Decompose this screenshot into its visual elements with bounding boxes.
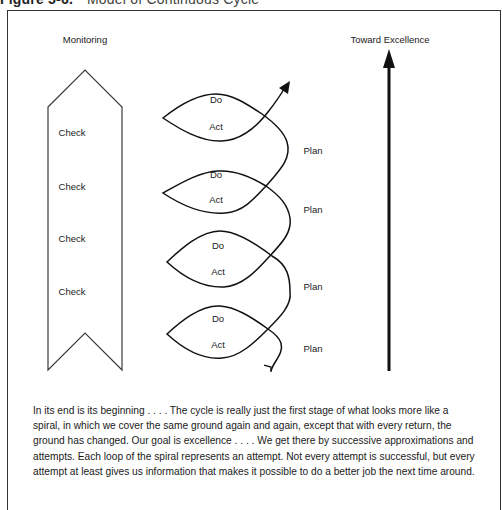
plan-label-1: Plan <box>303 145 322 156</box>
caption-line-5: attempt at least gives us information th… <box>33 464 495 479</box>
check-label-3: Check <box>59 233 86 244</box>
caption-line-4: attempts. Each loop of the spiral repres… <box>33 449 495 464</box>
check-label-1: Check <box>59 127 86 138</box>
excellence-arrow-head <box>383 49 395 68</box>
spiral-tail <box>264 365 271 372</box>
plan-label-4: Plan <box>303 343 322 354</box>
act-label-3: Act <box>211 266 225 277</box>
caption-line-1: In its end is its beginning . . . . The … <box>33 403 495 418</box>
plan-label-2: Plan <box>303 204 322 215</box>
do-label-3: Do <box>212 240 224 251</box>
monitoring-chevron-arrow <box>48 70 122 370</box>
check-label-4: Check <box>59 286 86 297</box>
toward-excellence-heading: Toward Excellence <box>350 34 429 45</box>
act-label-2: Act <box>209 194 223 205</box>
figure-caption: In its end is its beginning . . . . The … <box>33 403 495 479</box>
spiral-arrow-head <box>279 81 290 94</box>
do-label-1: Do <box>210 94 222 105</box>
monitoring-heading: Monitoring <box>63 34 107 45</box>
caption-line-2: spiral, in which we cover the same groun… <box>33 418 495 433</box>
do-label-4: Do <box>212 313 224 324</box>
pdca-spiral-path <box>163 89 290 371</box>
do-label-2: Do <box>210 169 222 180</box>
plan-label-3: Plan <box>303 281 322 292</box>
caption-line-3: ground has changed. Our goal is excellen… <box>33 433 495 448</box>
act-label-4: Act <box>211 339 225 350</box>
act-label-1: Act <box>209 121 223 132</box>
check-label-2: Check <box>59 181 86 192</box>
